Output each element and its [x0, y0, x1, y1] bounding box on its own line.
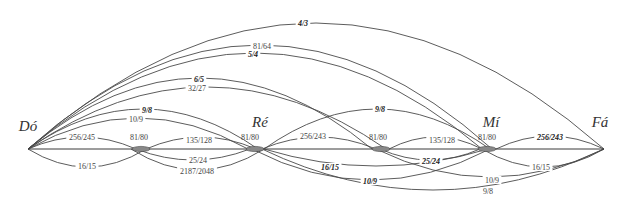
comma-label: 81/80 — [130, 133, 148, 142]
interval-label: 10/9 — [485, 176, 499, 185]
node-do: Dó — [18, 118, 38, 134]
node-mi: Mí — [482, 114, 501, 130]
interval-label: 256/245 — [69, 133, 95, 142]
interval-label: 9/8 — [483, 187, 493, 196]
just-intonation-diagram: 81/8081/8081/8081/80 4/381/645/46/532/27… — [0, 0, 626, 207]
comma-label: 81/80 — [478, 133, 496, 142]
comma-knot — [246, 146, 264, 151]
interval-label: 32/27 — [188, 84, 206, 93]
interval-label: 9/8 — [375, 105, 385, 114]
interval-arcs — [28, 23, 604, 190]
interval-label: 256/243 — [300, 132, 326, 141]
interval-label: 25/24 — [189, 156, 207, 165]
comma-knot — [372, 146, 390, 151]
comma-label: 81/80 — [369, 133, 387, 142]
interval-label: 256/243 — [536, 133, 563, 142]
comma-knot — [132, 146, 150, 151]
interval-label: 10/9 — [363, 177, 377, 186]
comma-knot — [478, 146, 496, 151]
interval-label: 5/4 — [248, 50, 258, 59]
interval-label: 2187/2048 — [180, 167, 214, 176]
interval-label: 135/128 — [186, 136, 212, 145]
interval-label: 25/24 — [421, 157, 440, 166]
interval-arc — [252, 149, 490, 180]
interval-label: 6/5 — [194, 75, 204, 84]
node-re: Ré — [251, 114, 269, 130]
interval-label: 10/9 — [129, 115, 143, 124]
comma-label: 81/80 — [241, 133, 259, 142]
interval-label: 9/8 — [142, 106, 152, 115]
interval-label: 16/15 — [78, 162, 96, 171]
note-labels: Dó Ré Mí Fá — [18, 114, 609, 134]
interval-label: 135/128 — [429, 136, 455, 145]
node-fa: Fá — [591, 114, 609, 130]
interval-label: 16/15 — [321, 163, 339, 172]
interval-label: 16/15 — [532, 163, 550, 172]
interval-labels: 4/381/645/46/532/279/810/9256/24516/1513… — [66, 19, 565, 196]
interval-label: 4/3 — [297, 19, 308, 28]
interval-arc — [262, 149, 604, 190]
